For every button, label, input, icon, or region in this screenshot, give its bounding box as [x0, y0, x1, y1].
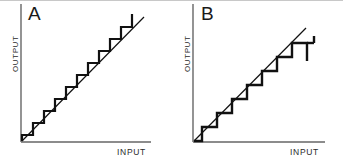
panel-a-letter: A: [28, 4, 41, 23]
panel-a: A OUTPUT INPUT: [0, 0, 172, 163]
panel-b-x-axis-label: INPUT: [290, 148, 319, 157]
panel-a-x-axis-label: INPUT: [117, 148, 146, 157]
panel-a-y-axis-label: OUTPUT: [12, 36, 20, 73]
quantization-figure: A OUTPUT INPUT B OUTPUT INPUT: [0, 0, 343, 163]
panel-b-letter: B: [201, 4, 214, 23]
panel-b-y-axis-label: OUTPUT: [184, 36, 192, 73]
panel-a-plot: [0, 0, 172, 163]
panel-b-staircase: [194, 43, 307, 141]
panel-b: B OUTPUT INPUT: [171, 0, 343, 163]
panel-b-plot: [171, 0, 343, 163]
panel-a-staircase: [22, 14, 132, 141]
